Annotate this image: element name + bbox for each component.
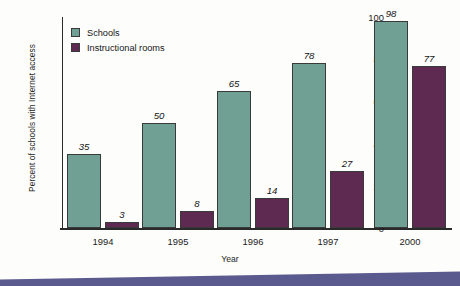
legend-label-schools: Schools <box>87 28 120 38</box>
legend-item-schools: Schools <box>71 25 165 40</box>
page-decoration-band <box>0 268 460 286</box>
legend-swatch-instructional-rooms <box>71 43 80 52</box>
bar-value-label: 14 <box>252 185 292 196</box>
bar-group: 9877 <box>374 17 450 228</box>
bar-value-label: 98 <box>371 8 411 19</box>
bar-schools <box>67 154 101 228</box>
bar-schools <box>292 63 326 228</box>
bar-schools <box>217 91 251 228</box>
bar-value-label: 8 <box>177 198 217 209</box>
x-axis-title: Year <box>0 254 460 264</box>
x-tick-1996: 1996 <box>213 236 293 247</box>
bar-schools <box>142 123 176 229</box>
legend-swatch-schools <box>71 28 80 37</box>
bar-instructional-rooms <box>180 211 214 228</box>
bar-value-label: 27 <box>327 158 367 169</box>
bar-instructional-rooms <box>255 198 289 228</box>
bar-value-label: 77 <box>409 53 449 64</box>
bar-value-label: 3 <box>102 209 142 220</box>
bar-value-label: 35 <box>64 141 104 152</box>
bar-instructional-rooms <box>330 171 364 228</box>
legend-item-instructional-rooms: Instructional rooms <box>71 40 165 55</box>
chart-legend: Schools Instructional rooms <box>71 25 165 55</box>
bar-value-label: 65 <box>214 78 254 89</box>
y-axis-line <box>62 17 63 228</box>
x-tick-1994: 1994 <box>63 236 143 247</box>
bar-instructional-rooms <box>105 222 139 228</box>
x-tick-1995: 1995 <box>138 236 218 247</box>
chart-figure: Percent of schools with Internet access … <box>0 0 460 286</box>
bar-value-label: 78 <box>289 50 329 61</box>
x-tick-1997: 1997 <box>288 236 368 247</box>
legend-label-instructional-rooms: Instructional rooms <box>87 43 165 53</box>
bar-instructional-rooms <box>412 66 446 228</box>
bar-group: 7827 <box>292 17 368 228</box>
bar-schools <box>374 21 408 228</box>
y-axis-title: Percent of schools with Internet access <box>27 13 37 223</box>
bar-value-label: 50 <box>139 110 179 121</box>
bar-group: 6514 <box>217 17 293 228</box>
x-tick-2000: 2000 <box>370 236 450 247</box>
